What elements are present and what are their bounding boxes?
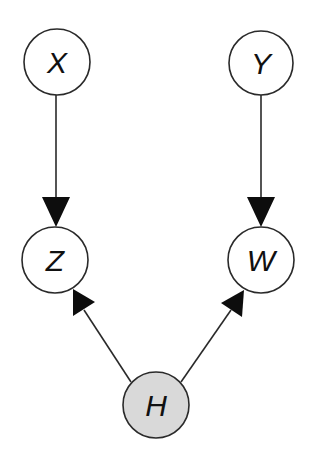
arrowhead-h-to-w-icon (221, 290, 244, 317)
node-y-label: Y (251, 47, 273, 80)
edge-h-to-w (181, 310, 231, 382)
arrowhead-h-to-z-icon (73, 289, 95, 316)
node-h-hidden: H (123, 372, 189, 438)
node-z: Z (22, 227, 88, 293)
bayesian-network-diagram: X Y Z W H (0, 0, 312, 462)
node-w-label: W (247, 244, 278, 277)
node-z-label: Z (45, 244, 66, 277)
node-y: Y (229, 31, 293, 95)
node-x: X (24, 29, 90, 95)
edge-h-to-z (84, 310, 131, 382)
node-h-label: H (145, 389, 167, 422)
node-w: W (228, 227, 294, 293)
arrowhead-x-to-z-icon (42, 197, 70, 227)
arrowhead-y-to-w-icon (247, 197, 275, 227)
node-x-label: X (46, 46, 68, 79)
